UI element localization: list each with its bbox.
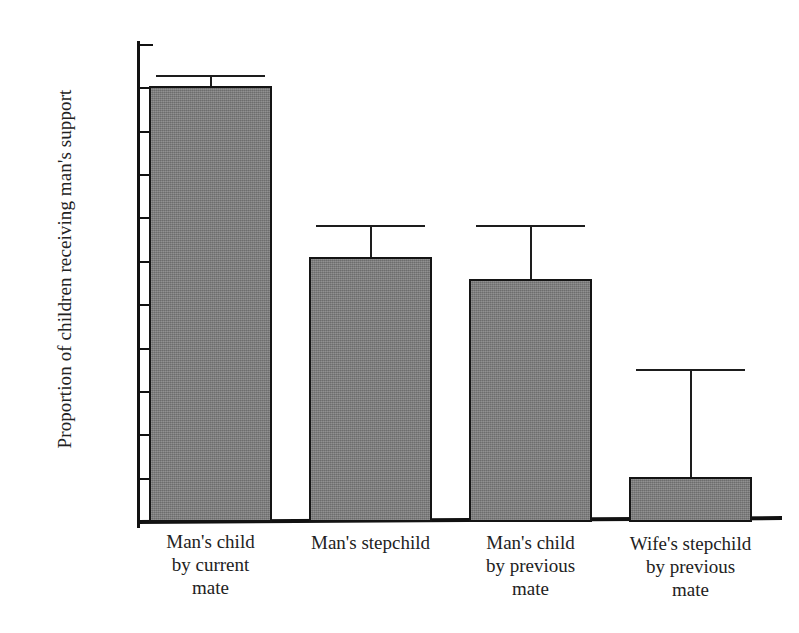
x-axis-category-label-line: Man's stepchild: [281, 531, 461, 554]
bar: [629, 477, 752, 522]
error-bar-cap: [156, 75, 265, 77]
bar: [309, 257, 432, 522]
error-bar-cap: [476, 225, 585, 227]
error-bar-stem: [690, 369, 692, 477]
x-axis-category-label-line: Man's child: [121, 530, 301, 553]
x-axis-category-label-line: Wife's stepchild: [601, 532, 781, 555]
y-axis-line: [137, 41, 140, 528]
error-bar-cap: [316, 225, 425, 227]
x-axis-category-label-line: by previous: [601, 555, 781, 578]
error-bar-cap: [636, 369, 745, 371]
x-axis-category-label-line: by previous: [441, 554, 621, 577]
error-bar-stem: [530, 225, 532, 279]
x-axis-category-label: Wife's stepchildby previousmate: [601, 532, 781, 602]
x-axis-category-label: Man's childby currentmate: [121, 530, 301, 600]
bar-chart: Proportion of children receiving man's s…: [0, 0, 799, 633]
bar: [149, 86, 272, 522]
y-axis-title: Proportion of children receiving man's s…: [54, 34, 76, 504]
x-axis-category-label-line: mate: [121, 576, 301, 599]
x-axis-category-label-line: Man's child: [441, 531, 621, 554]
error-bar-stem: [370, 225, 372, 256]
x-axis-category-label-line: mate: [601, 578, 781, 601]
x-axis-category-label: Man's childby previousmate: [441, 531, 621, 601]
x-axis-category-label-line: by current: [121, 553, 301, 576]
y-axis-tick: [140, 44, 153, 46]
x-axis-category-label: Man's stepchild: [281, 531, 461, 554]
bar: [469, 279, 592, 522]
plot-area: 0.800.750.700.650.600.550.500.450.400.35…: [137, 36, 782, 528]
x-axis-category-label-line: mate: [441, 577, 621, 600]
